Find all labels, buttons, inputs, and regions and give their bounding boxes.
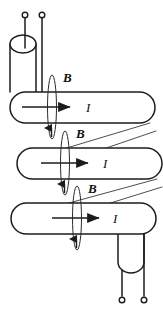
top-left-terminal[interactable] [22,12,28,18]
middle-field-label: B [75,126,85,141]
top-bar-group: I [10,92,155,123]
figure-canvas: I B I B I B [0,0,163,316]
top-bar-current-label: I [85,100,91,115]
middle-bar-body [17,148,162,179]
top-field-label: B [62,70,72,85]
bottom-bar-current-label: I [112,211,118,226]
bottom-cylinder-group [118,234,147,303]
middle-bar-current-label: I [102,156,108,171]
top-right-terminal[interactable] [39,12,45,18]
bottom-cylinder-body [118,234,144,273]
bottom-bar-group: I [11,203,156,234]
solenoid-figure: I B I B I B [0,0,163,316]
bottom-right-terminal[interactable] [141,297,147,303]
bottom-field-label: B [87,181,97,196]
top-cylinder-cap [10,35,36,53]
top-cylinder-group [10,12,45,92]
middle-bar-group: I [17,148,162,179]
bottom-left-terminal[interactable] [119,297,125,303]
